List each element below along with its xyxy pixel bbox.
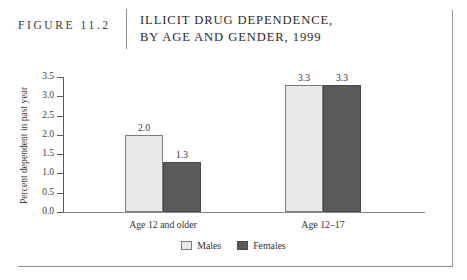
y-axis-tick-mark [57, 154, 63, 155]
y-axis-tick-label: 3.0 [28, 90, 54, 100]
chart-legend: Males Females [0, 240, 467, 251]
y-axis-tick-label: 0.5 [28, 187, 54, 197]
legend-item-females: Females [237, 240, 286, 251]
y-axis-tick-mark [57, 193, 63, 194]
y-axis-tick-label: 0.0 [28, 206, 54, 216]
y-axis-tick-label: 1.5 [28, 148, 54, 158]
y-axis-tick-label: 1.0 [28, 167, 54, 177]
legend-label-males: Males [197, 240, 221, 251]
chart-plot-area: Percent dependent in past year 0.00.51.0… [0, 0, 467, 280]
y-axis-tick-mark [57, 212, 63, 213]
bar-value-label: 3.3 [323, 72, 361, 83]
bar-females [163, 162, 201, 212]
bar-value-label: 3.3 [285, 72, 323, 83]
figure-root: FIGURE 11.2 ILLICIT DRUG DEPENDENCE, BY … [0, 0, 467, 280]
x-axis-category-label: Age 12–17 [253, 219, 393, 230]
legend-label-females: Females [253, 240, 286, 251]
y-axis-tick-mark [57, 77, 63, 78]
y-axis-line [63, 77, 64, 213]
y-axis-tick-label: 3.5 [28, 71, 54, 81]
y-axis-tick-mark [57, 135, 63, 136]
bar-value-label: 2.0 [125, 122, 163, 133]
bar-females [323, 85, 361, 212]
legend-item-males: Males [181, 240, 221, 251]
y-axis-title: Percent dependent in past year [18, 71, 29, 221]
bar-males [125, 135, 163, 212]
legend-swatch-females-icon [237, 241, 248, 250]
y-axis-tick-mark [57, 116, 63, 117]
bar-value-label: 1.3 [163, 149, 201, 160]
y-axis-tick-label: 2.5 [28, 110, 54, 120]
x-axis-category-label: Age 12 and older [93, 219, 233, 230]
bar-males [285, 85, 323, 212]
y-axis-tick-mark [57, 173, 63, 174]
x-axis-line [63, 212, 425, 213]
legend-swatch-males-icon [181, 241, 192, 250]
y-axis-tick-mark [57, 96, 63, 97]
y-axis-tick-label: 2.0 [28, 129, 54, 139]
